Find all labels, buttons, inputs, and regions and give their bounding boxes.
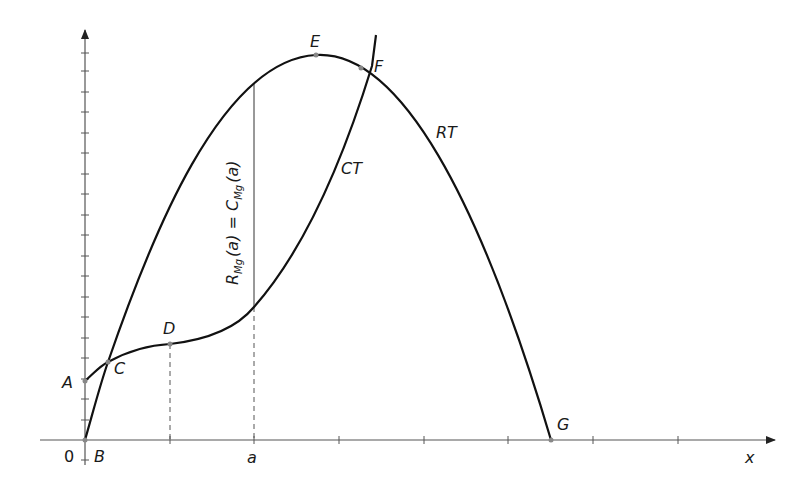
label-c: C: [114, 359, 126, 378]
point-a: [83, 379, 88, 384]
label-x-axis: x: [744, 448, 755, 467]
svg-text:RMg(a) = CMg(a): RMg(a) = CMg(a): [223, 161, 244, 285]
label-e: E: [310, 32, 321, 51]
point-d: [168, 342, 173, 347]
point-g: [549, 438, 554, 443]
label-ct: CT: [341, 159, 363, 178]
label-a-tick: a: [247, 448, 257, 467]
label-g: G: [557, 415, 569, 434]
label-d: D: [163, 319, 175, 338]
y-axis: [81, 30, 89, 465]
point-f: [359, 66, 364, 71]
revenue-cost-diagram: A B 0 C D E F G a x RT CT RMg(a) = CMg(a…: [0, 0, 803, 487]
rt-curve: [85, 55, 551, 440]
label-a: A: [61, 373, 73, 392]
label-rt: RT: [436, 123, 458, 142]
marginal-equality-annotation: RMg(a) = CMg(a): [223, 161, 244, 285]
label-f: F: [374, 57, 384, 76]
point-e: [314, 53, 319, 58]
point-b: [83, 438, 88, 443]
label-b: B: [94, 447, 105, 466]
x-axis: [40, 436, 775, 444]
point-c: [106, 360, 111, 365]
label-origin: 0: [64, 447, 74, 466]
